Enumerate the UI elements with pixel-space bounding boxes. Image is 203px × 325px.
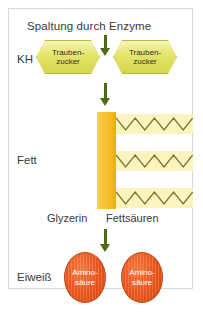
nutrient-digestion-diagram: Spaltung durch Enzyme KH Fett Eiweiß Tra… [8,8,193,289]
glucose-hexagon-left: Trauben- zucker [36,40,100,74]
amino-acid-right-line1: Amino- [129,268,154,278]
diagram-title: Spaltung durch Enzyme [27,20,151,32]
zigzag-icon [116,188,193,208]
glucose-hexagon-right-line2: zucker [133,57,157,67]
arrow-fat-to-protein [100,229,111,253]
fatty-acids-label: Fettsäuren [106,212,159,224]
arrow-enzyme-to-carbohydrate [100,35,111,56]
glycerol-backbone [97,112,116,209]
amino-acid-right-line2: säure [132,278,152,288]
zigzag-icon [116,151,193,171]
arrow-carbohydrate-to-fat [100,83,111,107]
glucose-hexagon-right-line1: Trauben- [129,48,161,58]
amino-acid-left: Amino- säure [64,252,106,303]
amino-acid-left-line1: Amino- [72,268,97,278]
glucose-hexagon-left-line1: Trauben- [52,48,84,58]
glucose-hexagon-left-line2: zucker [56,57,80,67]
row-label-carbohydrate: KH [17,53,33,65]
fatty-acid-chain-1 [116,114,193,134]
row-label-fat: Fett [17,154,37,166]
amino-acid-left-line2: säure [75,278,95,288]
fatty-acid-chain-2 [116,151,193,171]
fatty-acid-chain-3 [116,188,193,208]
zigzag-icon [116,114,193,134]
amino-acid-right: Amino- säure [121,252,163,303]
glycerol-label: Glyzerin [47,212,87,224]
row-label-protein: Eiweiß [17,271,52,283]
glucose-hexagon-right: Trauben- zucker [113,40,177,74]
